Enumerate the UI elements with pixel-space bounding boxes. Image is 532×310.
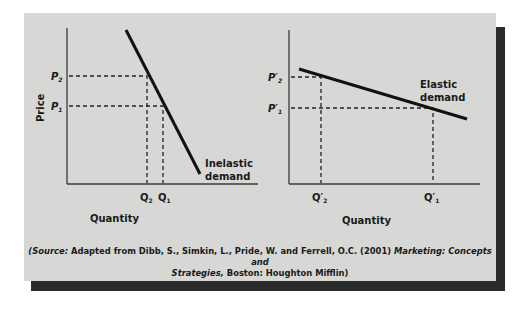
source-title-part2: Strategies, [172, 268, 224, 278]
p2-q2-guide [69, 76, 147, 183]
q1-label: Q [158, 192, 167, 203]
q1prime-label: Q′ [424, 192, 436, 203]
inelastic-chart: Price P2 P1 Q2 Q1 Inelastic demand Quant… [35, 28, 258, 224]
elastic-label-line2: demand [420, 92, 465, 103]
svg-text:Q′1: Q′1 [424, 192, 439, 204]
svg-text:P2: P2 [51, 71, 63, 83]
source-authors: Adapted from Dibb, S., Simkin, L., Pride… [68, 246, 394, 256]
q2-label: Q [140, 192, 149, 203]
left-x-axis-label: Quantity [90, 213, 139, 224]
source-prefix: (Source: [28, 246, 68, 256]
inelastic-label-line1: Inelastic [205, 158, 253, 169]
svg-text:P′2: P′2 [268, 72, 282, 84]
source-citation: (Source: Adapted from Dibb, S., Simkin, … [24, 246, 496, 279]
p2prime-q2prime-guide [291, 77, 321, 183]
svg-text:Q2: Q2 [140, 192, 153, 204]
svg-text:P1: P1 [51, 101, 63, 113]
source-publisher: Boston: Houghton Mifflin) [224, 268, 349, 278]
q2prime-label: Q′ [312, 192, 324, 203]
elastic-chart: P′2 P′1 Q′2 Q′1 Elastic demand Quantity [268, 30, 480, 226]
p1prime-q1prime-guide [291, 108, 433, 183]
left-y-axis-label: Price [35, 93, 46, 122]
p1-q1-guide [69, 106, 163, 183]
p1prime-label: P′ [268, 103, 278, 114]
svg-text:Q′2: Q′2 [312, 192, 327, 204]
right-x-axis-label: Quantity [342, 215, 391, 226]
svg-text:Q1: Q1 [158, 192, 171, 204]
elastic-label-line1: Elastic [420, 79, 457, 90]
svg-text:P′1: P′1 [268, 103, 282, 115]
p2prime-label: P′ [268, 72, 278, 83]
inelastic-label-line2: demand [205, 171, 250, 182]
